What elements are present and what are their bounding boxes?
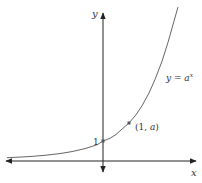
y-axis-label: y — [91, 8, 98, 19]
x-axis-label: x — [191, 167, 197, 178]
point-intercept — [102, 140, 105, 143]
exponential-graph: y x 1 y = ax (1, a) — [0, 0, 202, 183]
curve-label: y = ax — [165, 71, 194, 83]
intercept-label: 1 — [93, 137, 99, 147]
point-label: (1, a) — [135, 122, 159, 132]
exponential-curve — [7, 7, 178, 158]
point-1-a — [128, 122, 131, 125]
